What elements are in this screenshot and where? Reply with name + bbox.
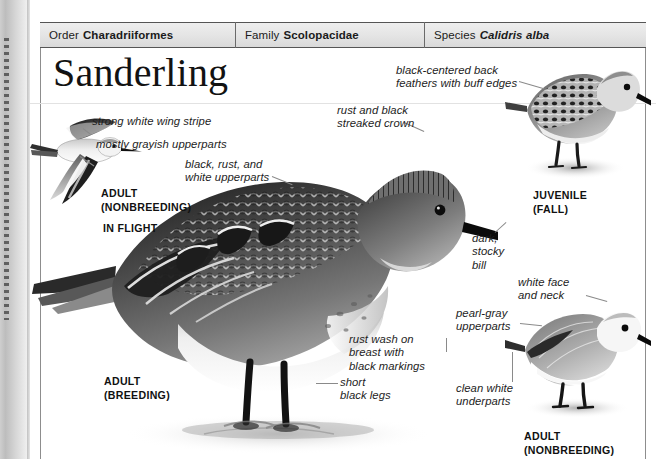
gutter-texture — [4, 38, 9, 320]
callout-rust-wash: rust wash on breast with black markings — [349, 333, 425, 373]
header-cell-order: Order Charadriiformes — [40, 22, 236, 48]
field-guide-page: Order Charadriiformes Family Scolopacida… — [0, 0, 656, 459]
callout-streaked-crown: rust and black streaked crown — [337, 104, 414, 131]
callout-stocky-bill: dark, stocky bill — [472, 232, 504, 272]
caption-adult-nonbreeding-right: ADULT (NONBREEDING) — [524, 430, 614, 457]
callout-clean-white: clean white underparts — [456, 382, 513, 409]
header-cell-family: Family Scolopacidae — [236, 22, 425, 48]
callout-back-feathers: black-centered back feathers with buff e… — [396, 64, 517, 91]
header-label-species: Species — [434, 29, 476, 41]
callout-black-legs: short black legs — [340, 376, 391, 403]
caption-adult-breeding: ADULT (BREEDING) — [104, 375, 170, 402]
caption-adult-nonbreeding-flight: ADULT (NONBREEDING) — [101, 187, 191, 214]
leader-clean-white — [512, 352, 513, 382]
header-value-order: Charadriiformes — [83, 29, 173, 41]
header-label-order: Order — [49, 29, 79, 41]
caption-juvenile-fall: JUVENILE (FALL) — [533, 189, 587, 216]
sanderling-adult-nonbreeding-illustration — [505, 296, 651, 422]
taxonomy-header: Order Charadriiformes Family Scolopacida… — [40, 22, 646, 48]
leader-rust-wash — [446, 338, 447, 352]
callout-pearl-gray: pearl-gray upperparts — [456, 307, 511, 334]
header-cell-species: Species Calidris alba — [425, 22, 646, 48]
callout-grayish-upperparts: mostly grayish upperparts — [96, 138, 227, 151]
callout-black-rust-white: black, rust, and white upperparts — [185, 158, 269, 185]
sanderling-juvenile-illustration — [505, 52, 651, 184]
callout-wing-stripe: strong white wing stripe — [92, 115, 211, 128]
caption-in-flight: IN FLIGHT — [103, 222, 157, 236]
callout-white-face-neck: white face and neck — [518, 276, 569, 303]
header-label-family: Family — [245, 29, 279, 41]
book-gutter-margin — [0, 0, 30, 459]
header-value-species: Calidris alba — [480, 29, 550, 41]
header-value-family: Scolopacidae — [283, 29, 358, 41]
page-title: Sanderling — [53, 53, 228, 93]
leader-black-legs — [316, 383, 338, 384]
